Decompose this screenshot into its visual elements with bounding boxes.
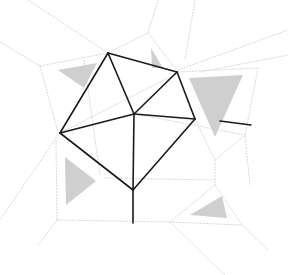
pentagon-edge [108, 53, 134, 114]
construction-line [245, 135, 250, 185]
construction-line [0, 135, 58, 220]
pentagon-edge [60, 114, 134, 133]
construction-line [56, 140, 57, 220]
pentagon-edge [133, 119, 195, 190]
construction-line [0, 42, 40, 66]
construction-line [40, 53, 108, 66]
pentagon-edge [220, 121, 251, 125]
shaded-triangle [65, 157, 96, 205]
shaded-triangle [58, 63, 97, 88]
construction-line [170, 222, 225, 275]
pentagon-edge [60, 53, 108, 133]
pentagon-edge [108, 53, 177, 72]
construction-line [177, 68, 258, 72]
pentagon-edge [134, 72, 177, 114]
construction-line [108, 33, 148, 53]
construction-line [178, 30, 288, 70]
construction-line [185, 0, 195, 60]
construction-lines [0, 0, 288, 275]
construction-line [38, 220, 57, 245]
construction-line [170, 222, 242, 225]
construction-line [105, 178, 215, 180]
construction-line [28, 0, 108, 53]
construction-line [215, 135, 245, 160]
pentagon-edge [134, 114, 195, 119]
shaded-triangle [190, 196, 227, 218]
construction-line [40, 66, 58, 132]
pentagon-edge [133, 114, 134, 190]
diagram-canvas [0, 0, 288, 275]
shaded-triangles [58, 48, 243, 218]
construction-line [148, 0, 158, 33]
shaded-triangle [189, 75, 243, 137]
construction-line [57, 220, 170, 222]
construction-line [242, 225, 268, 250]
